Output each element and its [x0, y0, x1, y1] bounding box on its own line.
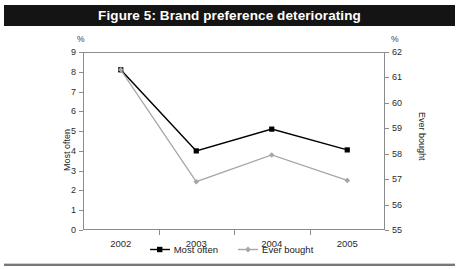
right-tick-mark	[385, 230, 389, 231]
plot-area: 9876543210 6261605958575655 200220032004…	[83, 52, 385, 230]
right-axis-unit: %	[391, 34, 399, 44]
figure-body: % % Most often Ever bought 9876543210 62…	[0, 26, 463, 261]
right-tick-label: 59	[392, 123, 402, 133]
right-tick-label: 55	[392, 225, 402, 235]
left-axis-unit: %	[77, 34, 85, 44]
right-tick-label: 56	[392, 200, 402, 210]
right-tick-mark	[385, 154, 389, 155]
right-tick-mark	[385, 103, 389, 104]
left-tick-label: 9	[71, 47, 76, 57]
left-tick-label: 0	[71, 225, 76, 235]
legend-item-label: Most often	[174, 244, 218, 255]
figure-title-bar: Figure 5: Brand preference deteriorating	[4, 5, 455, 26]
right-tick-label: 62	[392, 47, 402, 57]
x-tick-mark	[159, 230, 160, 235]
left-tick-label: 6	[71, 106, 76, 116]
data-point-marker	[194, 148, 199, 153]
left-tick-label: 8	[71, 67, 76, 77]
right-tick-label: 61	[392, 72, 402, 82]
data-point-marker	[344, 178, 350, 184]
legend-item-label: Ever bought	[262, 244, 313, 255]
right-tick-label: 60	[392, 98, 402, 108]
right-tick-mark	[385, 179, 389, 180]
left-tick-label: 4	[71, 146, 76, 156]
legend-item[interactable]: Most often	[150, 244, 218, 255]
series-layer	[83, 52, 385, 230]
left-tick-label: 1	[71, 205, 76, 215]
right-tick-label: 57	[392, 174, 402, 184]
series-line	[121, 70, 348, 182]
right-tick-mark	[385, 52, 389, 53]
left-tick-label: 3	[71, 166, 76, 176]
x-tick-mark	[234, 230, 235, 235]
right-tick-label: 58	[392, 149, 402, 159]
left-tick-label: 5	[71, 126, 76, 136]
legend-swatch-icon	[238, 245, 258, 254]
series-line	[121, 70, 348, 151]
left-tick-mark	[79, 230, 83, 231]
right-tick-mark	[385, 205, 389, 206]
data-point-marker	[345, 147, 350, 152]
data-point-marker	[269, 127, 274, 132]
figure-title: Figure 5: Brand preference deteriorating	[98, 8, 361, 23]
chart-legend: Most oftenEver bought	[0, 244, 463, 255]
right-tick-mark	[385, 77, 389, 78]
bottom-divider	[4, 263, 455, 266]
legend-swatch-icon	[150, 245, 170, 254]
left-tick-label: 7	[71, 87, 76, 97]
data-point-marker	[269, 152, 275, 158]
right-tick-mark	[385, 128, 389, 129]
right-axis-title: Ever bought	[417, 112, 427, 161]
left-tick-label: 2	[71, 185, 76, 195]
x-tick-mark	[310, 230, 311, 235]
legend-item[interactable]: Ever bought	[238, 244, 313, 255]
